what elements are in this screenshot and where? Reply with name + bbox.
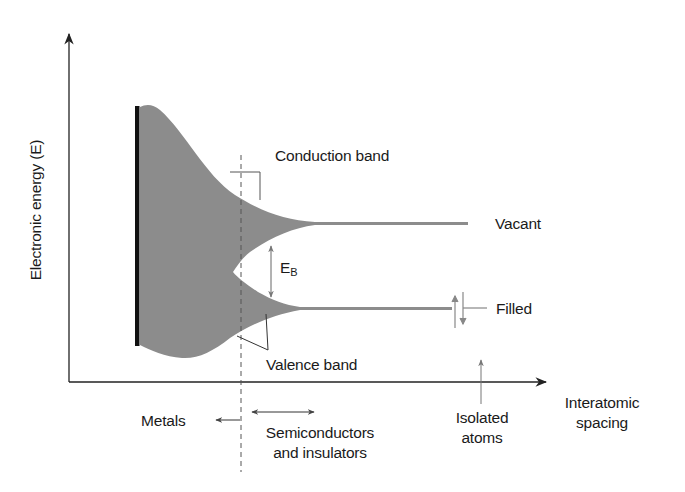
band-gap-subscript: B (290, 266, 297, 278)
x-axis-label-line1: Interatomic (552, 393, 652, 413)
x-axis-label: Interatomic spacing (552, 393, 652, 433)
filled-level-break-icon (452, 292, 487, 328)
vacant-label: Vacant (495, 214, 541, 234)
y-axis-label: Electronic energy (E) (27, 140, 45, 281)
x-axis-label-line2: spacing (552, 413, 652, 433)
valence-band-label: Valence band (266, 355, 357, 375)
metal-overlap-bar (135, 106, 140, 346)
semiconductors-label: Semiconductors and insulators (255, 423, 385, 463)
semiconductors-label-line2: and insulators (255, 443, 385, 463)
semiconductors-label-line1: Semiconductors (255, 423, 385, 443)
conduction-band-label: Conduction band (275, 146, 389, 166)
energy-band-region (140, 105, 468, 358)
metals-label: Metals (141, 411, 185, 431)
band-gap-label: EB (280, 258, 297, 282)
isolated-atoms-label-line1: Isolated (447, 408, 517, 428)
band-gap-symbol: E (280, 259, 290, 276)
isolated-atoms-label-line2: atoms (447, 428, 517, 448)
isolated-atoms-label: Isolated atoms (447, 408, 517, 448)
filled-label: Filled (496, 299, 532, 319)
